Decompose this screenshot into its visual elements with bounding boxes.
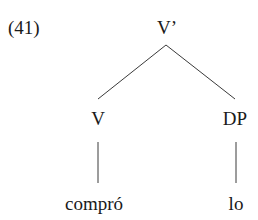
leaf-lo: lo	[229, 194, 244, 213]
leaf-compro: compró	[65, 194, 123, 213]
node-dp: DP	[223, 109, 247, 128]
node-root-vbar: V’	[157, 18, 177, 37]
edge-vbar-to-dp	[166, 45, 235, 99]
edge-vbar-to-v	[98, 45, 166, 99]
node-v: V	[91, 109, 105, 128]
example-number: (41)	[8, 18, 40, 37]
